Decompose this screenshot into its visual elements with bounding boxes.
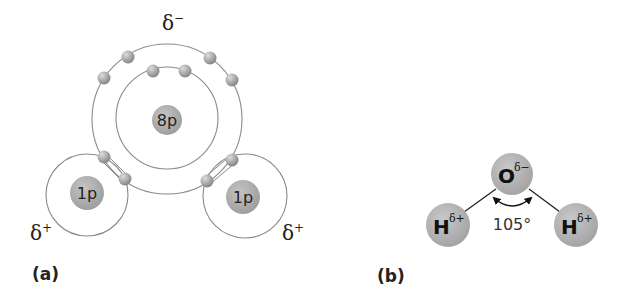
shared-electron bbox=[98, 151, 111, 164]
shared-electron bbox=[226, 154, 239, 167]
hydrogen-right-symbol: H bbox=[561, 215, 578, 239]
electron bbox=[147, 65, 160, 78]
bond-angle-label: 105° bbox=[493, 215, 532, 234]
hydrogen-right-charge: δ+ bbox=[577, 212, 593, 225]
electron bbox=[122, 51, 135, 64]
partial-charge-positive-left: δ+ bbox=[30, 221, 52, 245]
bond-right bbox=[529, 189, 560, 212]
shared-electron bbox=[119, 173, 132, 186]
panel-b-ball-stick-model: O δ− H δ+ H δ+ 105° (b) bbox=[377, 153, 598, 286]
hydrogen-left-charge: δ+ bbox=[449, 212, 465, 225]
oxygen-nucleus-label: 8p bbox=[157, 111, 177, 130]
hydrogen-left-nucleus-label: 1p bbox=[77, 184, 97, 203]
panel-a-label: (a) bbox=[32, 264, 59, 284]
electron bbox=[204, 52, 217, 65]
panel-b-label: (b) bbox=[377, 266, 405, 286]
electron bbox=[226, 74, 239, 87]
hydrogen-right-nucleus-label: 1p bbox=[233, 188, 253, 207]
shared-electron bbox=[201, 175, 214, 188]
panel-a-bohr-model: 8p 1p 1p δ− δ+ δ+ (a) bbox=[30, 11, 304, 284]
oxygen-symbol: O bbox=[498, 164, 515, 188]
oxygen-charge: δ− bbox=[514, 161, 530, 174]
bond-left bbox=[464, 189, 496, 212]
electron bbox=[98, 72, 111, 85]
hydrogen-left-symbol: H bbox=[433, 215, 450, 239]
partial-charge-positive-right: δ+ bbox=[282, 221, 304, 245]
bond-angle-arc-icon bbox=[494, 198, 531, 206]
water-molecule-diagram: 8p 1p 1p δ− δ+ δ+ (a) O δ− bbox=[0, 0, 625, 300]
electron bbox=[179, 65, 192, 78]
partial-charge-negative: δ− bbox=[162, 11, 184, 35]
